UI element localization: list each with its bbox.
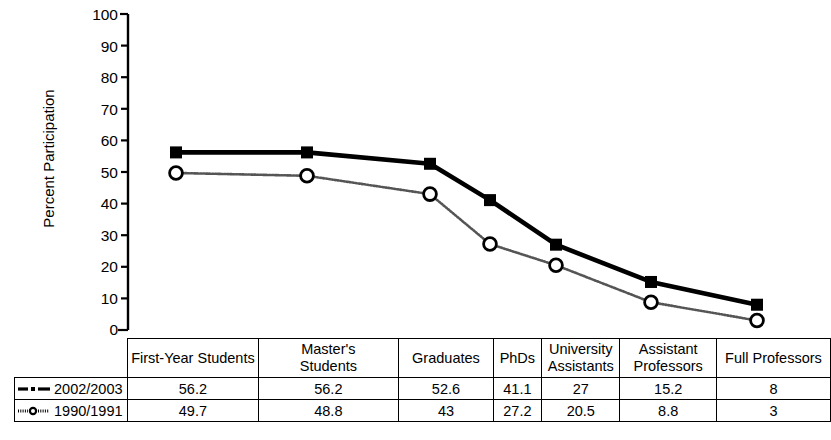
cell-value: 8 [716,378,830,400]
col-header-line: Graduates [399,350,492,367]
cell-value: 43 [399,400,493,422]
col-header-university-assistants: University Assistants [542,339,620,378]
series-line-1990-1991 [176,173,757,321]
data-table: First-Year Students Master's Students Gr… [14,338,831,422]
cell-value: 48.8 [258,400,399,422]
cell-value: 56.2 [128,378,258,400]
table-corner-cell [15,339,128,378]
col-header-line: PhDs [494,350,541,367]
table-header-row: First-Year Students Master's Students Gr… [15,339,831,378]
chart-svg [0,0,831,340]
cell-value: 56.2 [258,378,399,400]
col-header-line: University [542,341,619,358]
cell-value: 27.2 [493,400,541,422]
col-header-line: Students [259,358,399,375]
col-header-masters-students: Master's Students [258,339,399,378]
cell-value: 15.2 [620,378,716,400]
col-header-line: Professors [620,358,715,375]
cell-value: 27 [542,378,620,400]
series-markers-1990-1991 [170,167,764,327]
legend-dotted-circle-icon [17,404,51,418]
cell-value: 52.6 [399,378,493,400]
col-header-full-professors: Full Professors [716,339,830,378]
chart-plot-area: Percent Participation 100 90 80 70 60 50… [0,0,831,340]
col-header-line: Assistant [620,341,715,358]
cell-value: 20.5 [542,400,620,422]
legend-label: 2002/2003 [54,379,123,399]
col-header-first-year-students: First-Year Students [128,339,258,378]
col-header-phds: PhDs [493,339,541,378]
y-axis-ticks [118,14,128,330]
legend-dash-dot-square-icon [17,382,51,396]
cell-value: 49.7 [128,400,258,422]
chart-page: Percent Participation 100 90 80 70 60 50… [0,0,831,440]
cell-value: 8.8 [620,400,716,422]
col-header-graduates: Graduates [399,339,493,378]
col-header-line: Master's [259,341,399,358]
legend-label: 1990/1991 [54,401,123,421]
cell-value: 3 [716,400,830,422]
col-header-line: Full Professors [717,350,830,367]
table-row: 2002/2003 56.2 56.2 52.6 41.1 27 15.2 8 [15,378,831,400]
col-header-line: Assistants [542,358,619,375]
legend-cell-2002-2003: 2002/2003 [15,378,128,400]
table-row: 1990/1991 49.7 48.8 43 27.2 20.5 8.8 3 [15,400,831,422]
legend-cell-1990-1991: 1990/1991 [15,400,128,422]
col-header-line: First-Year Students [128,350,257,367]
col-header-assistant-professors: Assistant Professors [620,339,716,378]
cell-value: 41.1 [493,378,541,400]
